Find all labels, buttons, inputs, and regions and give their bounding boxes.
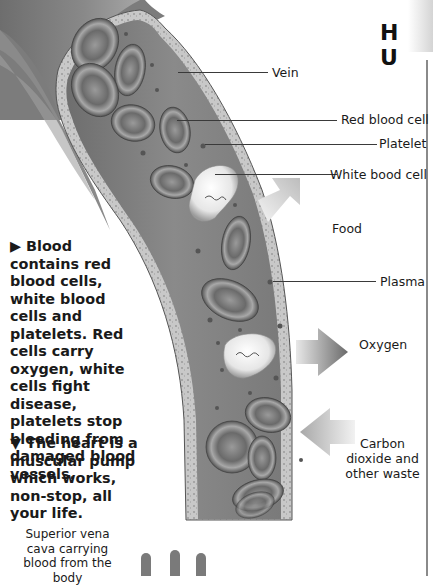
oxygen-arrow: [296, 328, 348, 376]
leader-plasma: [273, 281, 376, 282]
label-carbon-dioxide: Carbon dioxide and other waste: [345, 436, 420, 481]
leader-red-blood-cell: [177, 120, 337, 121]
label-white-blood-cell: White bood cell: [330, 167, 427, 182]
label-platelet: Platelet: [379, 136, 426, 151]
heart-vessels: [141, 550, 206, 576]
heart-paragraph: ▼ The heart is a muscular pump which wor…: [10, 435, 138, 523]
superior-vena-cava-caption: Superior vena cava carrying blood from t…: [10, 527, 125, 585]
label-vein: Vein: [272, 65, 299, 80]
leader-platelet: [205, 144, 377, 145]
label-food: Food: [332, 221, 362, 236]
label-oxygen: Oxygen: [359, 337, 407, 352]
label-plasma: Plasma: [380, 274, 425, 289]
label-red-blood-cell: Red blood cell: [341, 112, 429, 127]
leader-white-blood-cell: [215, 174, 337, 175]
leader-vein: [178, 72, 268, 73]
